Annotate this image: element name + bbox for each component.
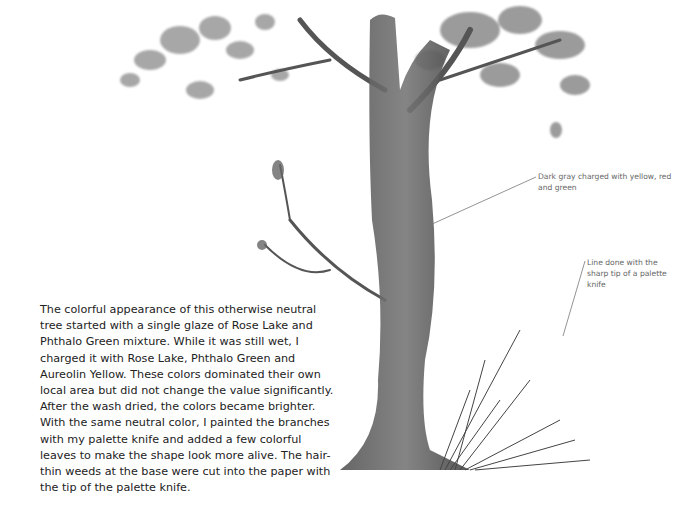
caption-text: The colorful appearance of this otherwis… (40, 302, 340, 496)
leader-line-1 (430, 177, 536, 225)
small-leaves (257, 160, 284, 250)
leader-line-2 (563, 261, 585, 336)
foliage-left (120, 14, 289, 99)
annotation-palette-knife: Line done with the sharp tip of a palett… (587, 257, 677, 290)
tree-trunk (340, 14, 470, 470)
annotation-dark-gray: Dark gray charged with yellow, red and g… (538, 171, 682, 193)
weeds (440, 330, 590, 470)
